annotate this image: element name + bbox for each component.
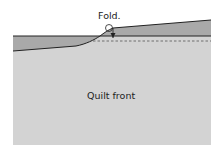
fold-label: Fold.	[98, 10, 121, 21]
quilt-front-label: Quilt front	[87, 90, 135, 101]
binding-fold-diagram: Fold. Quilt front	[0, 0, 222, 153]
